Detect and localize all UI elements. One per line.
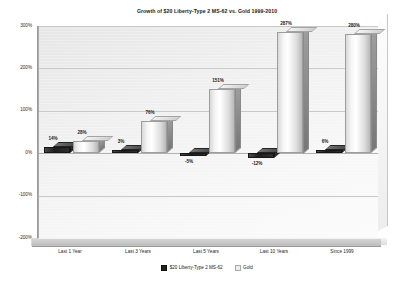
bar-front-face xyxy=(180,153,206,156)
bar[interactable] xyxy=(345,34,371,153)
bar-group: 14%28% xyxy=(38,26,106,238)
bar-group: 6%280% xyxy=(310,26,378,238)
bar[interactable] xyxy=(73,141,99,153)
bar[interactable] xyxy=(209,89,235,153)
bar-side-face xyxy=(303,26,309,153)
bar-groups: 14%28%3%76%-5%151%-12%287%6%280% xyxy=(38,26,378,238)
y-tick-label: 0% xyxy=(0,151,32,156)
bar-value-label: -12% xyxy=(237,162,277,167)
bar-side-face xyxy=(371,29,377,153)
bar-front-face xyxy=(141,121,167,153)
bar-value-label: 3% xyxy=(101,140,141,145)
bar-value-label: 280% xyxy=(334,24,374,29)
x-tick-label: Since 1999 xyxy=(302,250,382,255)
bar-group: -5%151% xyxy=(174,26,242,238)
y-tick-label: -200% xyxy=(0,236,32,241)
legend-label: Gold xyxy=(243,266,253,271)
legend-label: $20 Liberty-Type 2 MS-62 xyxy=(170,266,223,271)
bar-value-label: 151% xyxy=(198,79,238,84)
chart-floor-front xyxy=(32,239,381,247)
legend-swatch-icon xyxy=(235,265,241,271)
bar-value-label: -5% xyxy=(169,160,209,165)
chart-title: Growth of $20 Liberty-Type 2 MS-62 vs. G… xyxy=(0,8,414,14)
chart-legend: $20 Liberty-Type 2 MS-62Gold xyxy=(0,265,414,271)
legend-swatch-icon xyxy=(161,265,167,271)
bar-front-face xyxy=(209,89,235,153)
bar-side-face xyxy=(167,116,173,153)
plot-side-wall xyxy=(378,14,388,231)
bar-group: -12%287% xyxy=(242,26,310,238)
y-tick-label: 200% xyxy=(0,66,32,71)
bar-front-face xyxy=(248,153,274,158)
bar-front-face xyxy=(112,150,138,153)
bar-group: 3%76% xyxy=(106,26,174,238)
bar[interactable] xyxy=(180,153,206,156)
y-tick-label: 100% xyxy=(0,108,32,113)
chart-container: Growth of $20 Liberty-Type 2 MS-62 vs. G… xyxy=(0,0,414,283)
bar-value-label: 6% xyxy=(305,140,345,145)
bar[interactable] xyxy=(277,32,303,154)
bar-value-label: 76% xyxy=(130,111,170,116)
bar-value-label: 28% xyxy=(62,131,102,136)
bar[interactable] xyxy=(112,150,138,153)
bar-front-face xyxy=(345,34,371,153)
bar-side-face xyxy=(235,84,241,153)
bar[interactable] xyxy=(248,153,274,158)
bar-value-label: 14% xyxy=(33,137,73,142)
bar-front-face xyxy=(44,147,70,153)
bar-front-face xyxy=(73,141,99,153)
bar[interactable] xyxy=(44,147,70,153)
legend-item[interactable]: Gold xyxy=(235,265,253,271)
bar[interactable] xyxy=(141,121,167,153)
bar-front-face xyxy=(316,150,342,153)
bar-value-label: 287% xyxy=(266,22,306,27)
y-tick-label: -100% xyxy=(0,193,32,198)
bar[interactable] xyxy=(316,150,342,153)
y-tick-label: 300% xyxy=(0,24,32,29)
bar-front-face xyxy=(277,32,303,154)
legend-item[interactable]: $20 Liberty-Type 2 MS-62 xyxy=(161,265,222,271)
